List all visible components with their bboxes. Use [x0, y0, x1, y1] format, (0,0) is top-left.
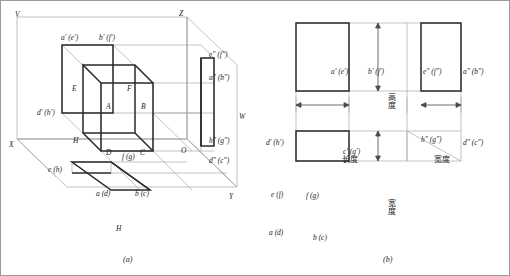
axis-label-o: O: [181, 147, 186, 155]
caption-a: (a): [123, 255, 132, 264]
label-b-prime-f-prime: b′ (f′): [99, 34, 115, 42]
vertex-label-e: E: [72, 85, 77, 93]
dimension-label-width-bottom: 宽度: [386, 199, 394, 215]
dimension-label-length: 长度: [342, 156, 358, 164]
axis-label-x: X: [9, 141, 14, 149]
dimension-label-height: 高度: [386, 93, 394, 109]
bview-side-bottom-right: d″ (c″): [463, 139, 483, 147]
bview-top-bottom-edge: b (c): [313, 234, 327, 242]
caption-b: (b): [383, 255, 392, 264]
axis-label-y: Y: [229, 193, 233, 201]
axis-label-h: H: [116, 225, 121, 233]
label-b-e: b (c): [135, 190, 149, 198]
axis-label-w: W: [239, 113, 245, 121]
bview-side-top-right: a″ (b″): [463, 68, 484, 76]
label-f-g: f (g): [122, 153, 135, 161]
side-projection-outline: [201, 58, 214, 146]
vertex-label-c: C: [140, 149, 145, 157]
label-a-dprime-b-dprime: a″ (b″): [209, 74, 230, 82]
figure-container: V Z W X Y H O a′ (e′) b′ (f′) d′ (h′) e″…: [0, 0, 510, 276]
label-d-dprime-c-dprime: d″ (c″): [209, 157, 229, 165]
side-view-outline: [421, 23, 461, 91]
label-a-d: a (d): [96, 190, 110, 198]
bview-top-bottom-left: a (d): [269, 229, 283, 237]
front-view-outline: [296, 23, 349, 91]
label-h-dprime-g-dprime: h″ (g″): [209, 137, 230, 145]
vertex-label-h: H: [73, 137, 78, 145]
vertex-label-d: D: [106, 149, 111, 157]
bview-front-bottom-left: d′ (h′): [266, 139, 284, 147]
label-e-h: e (h): [48, 166, 62, 174]
projection-planes: [17, 17, 237, 187]
label-a-prime-e-prime: a′ (e′): [61, 34, 78, 42]
dimension-label-width-right: 宽度: [434, 156, 450, 164]
bview-side-bottom-left: h″ (g″): [421, 136, 442, 144]
bview-side-top-left: e″ (f″): [423, 68, 442, 76]
label-e-dprime-f-dprime: e″ (f″): [209, 51, 228, 59]
bview-front-top-right: b′ (f′): [368, 68, 384, 76]
bview-top-top-left: e (f): [271, 191, 283, 199]
vertex-label-f: F: [127, 85, 132, 93]
label-d-prime-h-prime: d′ (h′): [37, 109, 55, 117]
vertex-label-b: B: [141, 103, 146, 111]
axis-label-z: Z: [179, 10, 183, 18]
panel-a-drawing: [1, 1, 261, 251]
vertex-label-a: A: [106, 103, 111, 111]
bview-front-top-left: a′ (e′): [331, 68, 348, 76]
axis-label-v: V: [15, 11, 20, 19]
bview-top-inner: f (g): [306, 192, 319, 200]
